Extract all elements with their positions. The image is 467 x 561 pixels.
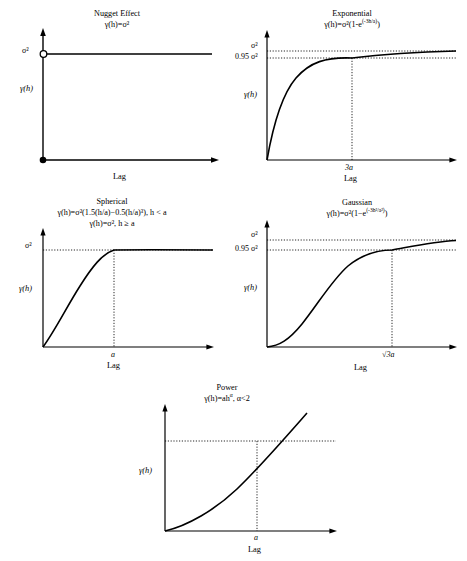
nugget-x-axis-arrow xyxy=(211,157,219,163)
nugget-open-circle-marker xyxy=(40,51,47,58)
gaussian-equation-base: γ(h)=σ²(1−e xyxy=(327,209,367,218)
spherical-y-axis-label: γ(h) xyxy=(19,284,32,293)
power-title: Power xyxy=(157,383,297,394)
spherical-xtick-range: a xyxy=(111,350,115,359)
exponential-curve xyxy=(267,51,456,160)
exponential-equation-tail: ) xyxy=(377,20,380,29)
nugget-ytick-sill: σ² xyxy=(22,46,29,55)
exponential-y-axis-arrow xyxy=(264,30,269,38)
spherical-title: Spherical xyxy=(0,197,226,208)
gaussian-equation-exponent: (-3h²/a²) xyxy=(366,207,384,213)
exponential-xtick-range: 3a xyxy=(345,163,353,172)
gaussian-ytick-sill: σ² xyxy=(251,230,258,239)
exponential-y-axis-label: γ(h) xyxy=(244,90,257,99)
gaussian-x-axis-label: Lag xyxy=(354,363,367,372)
power-equation-base: γ(h)=ah xyxy=(204,394,230,403)
nugget-origin-dot xyxy=(40,157,47,164)
exponential-equation-base: γ(h)=σ²(1-e xyxy=(324,20,362,29)
power-title-block: Power γ(h)=ahα, α<2 xyxy=(157,383,297,405)
gaussian-y-axis-arrow xyxy=(264,220,269,228)
gaussian-curve xyxy=(267,241,456,348)
panel-gaussian: Gaussian γ(h)=σ²(1−e(-3h²/a²)) σ² 0.95 σ… xyxy=(234,190,467,380)
nugget-y-axis-label: γ(h) xyxy=(20,84,33,93)
gaussian-equation-tail: ) xyxy=(385,209,388,218)
gaussian-equation: γ(h)=σ²(1−e(-3h²/a²)) xyxy=(282,209,432,220)
spherical-ytick-sill: σ² xyxy=(25,241,32,250)
spherical-equation-line2: γ(h)=σ², h ≥ a xyxy=(0,219,226,230)
nugget-title-block: Nugget Effect γ(h)=σ² xyxy=(58,9,176,31)
gaussian-title-block: Gaussian γ(h)=σ²(1−e(-3h²/a²)) xyxy=(282,198,432,220)
power-x-axis-label: Lag xyxy=(248,545,261,554)
gaussian-y-axis-label: γ(h) xyxy=(244,283,257,292)
power-x-axis-arrow xyxy=(329,528,337,533)
gaussian-x-axis-arrow xyxy=(449,344,457,349)
power-curve xyxy=(165,413,307,531)
panel-nugget-effect: Nugget Effect γ(h)=σ² σ² γ(h) Lag xyxy=(0,0,234,190)
power-y-axis-label: γ(h) xyxy=(139,466,152,475)
spherical-equation-line1: γ(h)=σ²(1.5(h/a)−0.5(h/a)³), h < a xyxy=(0,208,226,219)
spherical-x-axis-arrow xyxy=(206,344,214,349)
nugget-title: Nugget Effect xyxy=(58,9,176,20)
spherical-title-block: Spherical γ(h)=σ²(1.5(h/a)−0.5(h/a)³), h… xyxy=(0,197,226,229)
panel-power: Power γ(h)=ahα, α<2 γ(h) a Lag xyxy=(117,378,350,561)
exponential-ytick-sill: σ² xyxy=(251,41,258,50)
nugget-y-axis-arrow xyxy=(40,28,46,36)
power-xtick-range: a xyxy=(254,533,258,542)
exponential-title-block: Exponential γ(h)=σ²(1-e(-3h/a)) xyxy=(282,9,422,31)
exponential-equation: γ(h)=σ²(1-e(-3h/a)) xyxy=(282,20,422,31)
power-y-axis-arrow xyxy=(162,404,167,412)
exponential-equation-exponent: (-3h/a) xyxy=(362,18,377,24)
gaussian-title: Gaussian xyxy=(282,198,432,209)
exponential-x-axis-label: Lag xyxy=(344,174,357,183)
spherical-curve xyxy=(43,250,213,347)
gaussian-xtick-range: √3a xyxy=(382,350,394,359)
panel-exponential: Exponential γ(h)=σ²(1-e(-3h/a)) σ² 0.95 … xyxy=(234,0,467,190)
nugget-equation: γ(h)=σ² xyxy=(58,20,176,31)
power-equation: γ(h)=ahα, α<2 xyxy=(157,394,297,405)
gaussian-ytick-095sill: 0.95 σ² xyxy=(235,244,258,253)
exponential-title: Exponential xyxy=(282,9,422,20)
exponential-ytick-095sill: 0.95 σ² xyxy=(235,52,258,61)
panel-spherical: Spherical γ(h)=σ²(1.5(h/a)−0.5(h/a)³), h… xyxy=(0,190,234,380)
spherical-x-axis-label: Lag xyxy=(107,361,120,370)
exponential-x-axis-arrow xyxy=(449,157,457,162)
nugget-x-axis-label: Lag xyxy=(113,172,126,181)
power-equation-tail: , α<2 xyxy=(233,394,250,403)
